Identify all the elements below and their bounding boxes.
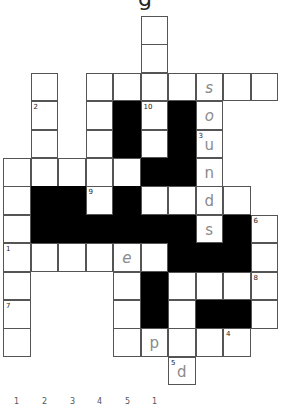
black-cell — [141, 158, 169, 187]
black-cell — [196, 300, 224, 329]
crossword-cell[interactable]: 3u — [196, 130, 224, 159]
black-cell — [223, 300, 251, 329]
crossword-cell[interactable] — [251, 243, 279, 272]
cell-letter: s — [197, 79, 223, 97]
crossword-cell[interactable] — [223, 73, 251, 102]
black-cell — [223, 243, 251, 272]
crossword-cell[interactable] — [86, 243, 114, 272]
crossword-cell[interactable] — [141, 16, 169, 45]
crossword-cell[interactable] — [31, 130, 59, 159]
bottom-number: 2 — [42, 397, 47, 406]
crossword-cell[interactable] — [196, 272, 224, 301]
crossword-cell[interactable] — [223, 186, 251, 215]
crossword-cell[interactable]: 10 — [141, 101, 169, 130]
black-cell — [223, 215, 251, 244]
crossword-cell[interactable] — [86, 101, 114, 130]
cell-letter: e — [114, 249, 140, 267]
crossword-cell[interactable] — [168, 328, 196, 357]
black-cell — [86, 215, 114, 244]
crossword-cell[interactable] — [113, 328, 141, 357]
crossword-cell[interactable]: s — [196, 73, 224, 102]
cell-letter: s — [197, 221, 223, 239]
crossword-cell[interactable]: e — [113, 243, 141, 272]
crossword-cell[interactable]: 9 — [86, 186, 114, 215]
crossword-cell[interactable] — [3, 272, 31, 301]
black-cell — [113, 186, 141, 215]
clue-number: 2 — [34, 103, 38, 111]
crossword-cell[interactable]: d — [196, 186, 224, 215]
black-cell — [31, 186, 59, 215]
crossword-cell[interactable]: 6 — [251, 215, 279, 244]
crossword-cell[interactable] — [141, 243, 169, 272]
clue-number: 4 — [226, 330, 230, 338]
crossword-cell[interactable] — [3, 328, 31, 357]
cell-letter: p — [142, 334, 168, 352]
black-cell — [141, 300, 169, 329]
crossword-cell[interactable] — [3, 215, 31, 244]
crossword-cell[interactable] — [31, 73, 59, 102]
clue-number: 6 — [254, 217, 258, 225]
crossword-cell[interactable] — [141, 130, 169, 159]
bottom-number: 1 — [152, 397, 157, 406]
crossword-cell[interactable] — [141, 44, 169, 73]
crossword-cell[interactable]: p — [141, 328, 169, 357]
crossword-cell[interactable] — [141, 186, 169, 215]
crossword-cell[interactable] — [3, 186, 31, 215]
crossword-cell[interactable]: 1 — [3, 243, 31, 272]
crossword-cell[interactable] — [141, 73, 169, 102]
crossword-cell[interactable] — [223, 272, 251, 301]
cell-letter: d — [197, 192, 223, 210]
cell-letter: n — [197, 164, 223, 182]
cell-letter: d — [169, 363, 195, 381]
clue-number: 1 — [6, 245, 10, 253]
black-cell — [58, 186, 86, 215]
crossword-cell[interactable] — [86, 73, 114, 102]
crossword-cell[interactable] — [113, 158, 141, 187]
clue-number: 7 — [6, 302, 10, 310]
crossword-cell[interactable] — [251, 73, 279, 102]
black-cell — [168, 158, 196, 187]
crossword-cell[interactable]: 5d — [168, 357, 196, 386]
bottom-number-row: 123451 — [0, 397, 285, 406]
crossword-cell[interactable]: n — [196, 158, 224, 187]
black-cell — [168, 215, 196, 244]
bottom-number: 3 — [70, 397, 75, 406]
black-cell — [168, 130, 196, 159]
crossword-cell[interactable] — [168, 272, 196, 301]
crossword-cell[interactable] — [3, 158, 31, 187]
black-cell — [58, 215, 86, 244]
black-cell — [141, 272, 169, 301]
clue-number: 8 — [254, 274, 258, 282]
crossword-cell[interactable] — [86, 158, 114, 187]
clue-number: 9 — [89, 188, 93, 196]
crossword-cell[interactable]: 2 — [31, 101, 59, 130]
clue-number: 10 — [144, 103, 153, 111]
crossword-cell[interactable] — [196, 328, 224, 357]
black-cell — [31, 215, 59, 244]
crossword-cell[interactable] — [31, 158, 59, 187]
crossword-cell[interactable] — [168, 186, 196, 215]
crossword-cell[interactable] — [58, 158, 86, 187]
cell-letter: u — [197, 136, 223, 154]
bottom-number: 4 — [97, 397, 102, 406]
crossword-cell[interactable]: s — [196, 215, 224, 244]
crossword-cell[interactable]: o — [196, 101, 224, 130]
black-cell — [168, 101, 196, 130]
crossword-cell[interactable]: 8 — [251, 272, 279, 301]
bottom-number: 5 — [125, 397, 130, 406]
black-cell — [168, 243, 196, 272]
crossword-cell[interactable]: 4 — [223, 328, 251, 357]
crossword-cell[interactable] — [113, 300, 141, 329]
crossword-cell[interactable] — [58, 243, 86, 272]
crossword-cell[interactable] — [113, 272, 141, 301]
crossword-cell[interactable] — [31, 243, 59, 272]
crossword-grid: s210o3un9ds61e87p45d — [0, 0, 285, 390]
crossword-cell[interactable] — [251, 300, 279, 329]
black-cell — [113, 101, 141, 130]
cell-letter: o — [197, 107, 223, 125]
crossword-cell[interactable]: 7 — [3, 300, 31, 329]
crossword-cell[interactable] — [168, 73, 196, 102]
crossword-cell[interactable] — [86, 130, 114, 159]
crossword-cell[interactable] — [113, 73, 141, 102]
crossword-cell[interactable] — [168, 300, 196, 329]
